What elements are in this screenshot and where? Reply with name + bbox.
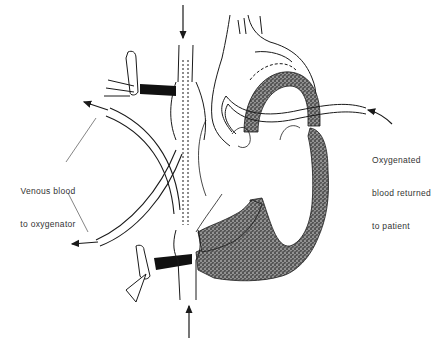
upper-stopper	[104, 51, 138, 96]
aortic-arch-stippled	[244, 72, 320, 132]
lower-tourniquet	[154, 254, 192, 270]
arterial-arrow	[368, 110, 392, 124]
oxy-label-line3: to patient	[372, 221, 431, 232]
oxygenated-blood-label: Oxygenated blood returned to patient	[372, 133, 431, 254]
bypass-diagram: Venous blood to oxygenator Oxygenated bl…	[0, 0, 441, 345]
ivc-cannula	[174, 230, 200, 300]
upper-tourniquet	[140, 84, 176, 96]
oxy-label-line2: blood returned	[372, 188, 431, 199]
venous-label-line2: to oxygenator	[13, 219, 83, 230]
venous-upper-arrow	[84, 102, 108, 110]
venous-label-line1: Venous blood	[13, 186, 83, 197]
venous-leader-upper	[66, 118, 96, 162]
venous-blood-label: Venous blood to oxygenator	[13, 164, 83, 252]
oxy-label-line1: Oxygenated	[372, 155, 431, 166]
arterial-cannula	[222, 96, 366, 134]
lower-stopper	[126, 245, 150, 302]
venous-tubes	[96, 108, 182, 246]
